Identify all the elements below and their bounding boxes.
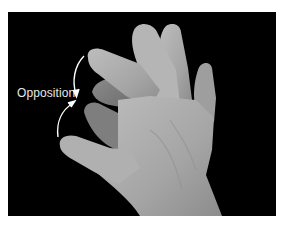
opposition-label: Opposition: [17, 86, 75, 100]
arrow-up-icon: [58, 103, 73, 137]
arrow-down-icon: [74, 56, 84, 94]
photo-frame: Opposition: [8, 12, 276, 216]
hand-photo: [8, 12, 276, 216]
